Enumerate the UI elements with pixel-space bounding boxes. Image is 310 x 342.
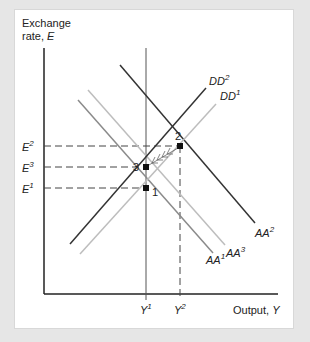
dd-aa-diagram — [0, 0, 310, 342]
point-3-label: 3 — [133, 161, 139, 173]
label-dd1: DD1 — [220, 88, 240, 102]
point-2 — [177, 143, 183, 149]
point-1 — [143, 185, 149, 191]
tick-e2: E2 — [22, 139, 34, 153]
tick-y1: Y1 — [140, 302, 152, 316]
tick-e3: E3 — [22, 160, 34, 174]
x-axis-label: Output, Y — [233, 304, 279, 316]
point-2-label: 2 — [175, 130, 181, 142]
point-3 — [143, 164, 149, 170]
tick-y2: Y2 — [174, 302, 186, 316]
point-1-label: 1 — [152, 186, 158, 198]
label-aa2: AA2 — [255, 225, 274, 239]
tick-e1: E1 — [22, 181, 34, 195]
label-dd2: DD2 — [209, 73, 229, 87]
y-axis-label: Exchange rate, E — [22, 17, 71, 43]
label-aa1: AA1 — [206, 252, 225, 266]
label-aa3: AA3 — [226, 245, 245, 259]
